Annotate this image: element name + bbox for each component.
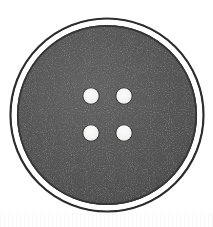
hole-bottom-right bbox=[115, 124, 132, 141]
button-illustration bbox=[0, 0, 213, 227]
image-canvas: Four-hole sewing button bbox=[0, 0, 213, 227]
hole-top-left bbox=[82, 87, 99, 104]
hole-top-right bbox=[115, 87, 132, 104]
button-body-group bbox=[17, 25, 197, 205]
button-figure bbox=[0, 0, 213, 227]
hole-bottom-left bbox=[82, 124, 99, 141]
